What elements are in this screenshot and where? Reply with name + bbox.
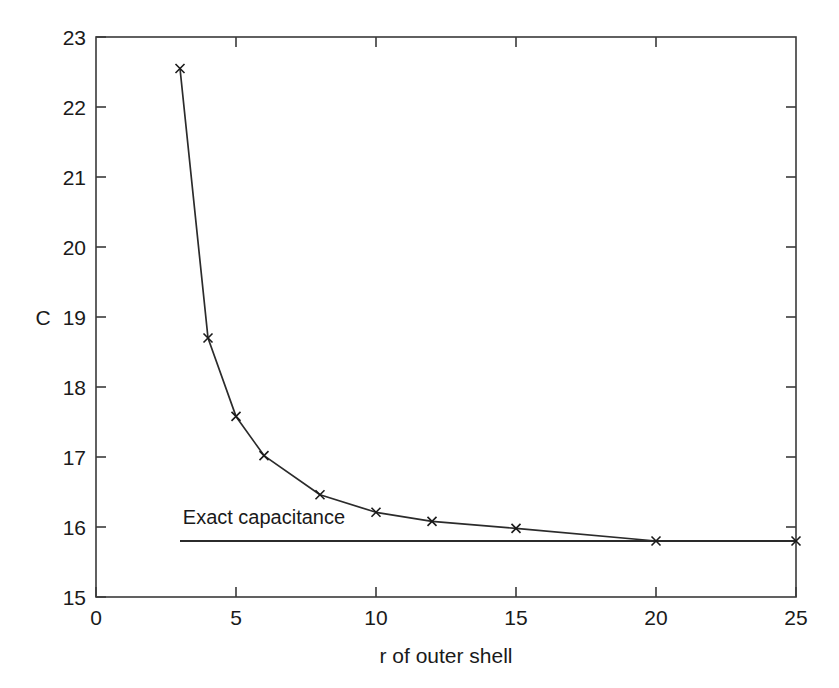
y-tick-label-18: 18 <box>63 376 86 399</box>
y-tick-label-23: 23 <box>63 26 86 49</box>
figure-container: 23 22 21 20 19 18 17 16 15 0 5 10 15 20 … <box>0 0 839 688</box>
y-tick-label-19: 19 <box>63 306 86 329</box>
x-tick-label-25: 25 <box>784 606 807 629</box>
y-tick-label-22: 22 <box>63 96 86 119</box>
cropped-caption-text <box>0 676 839 688</box>
y-tick-label-16: 16 <box>63 516 86 539</box>
x-tick-label-10: 10 <box>364 606 387 629</box>
x-tick-label-0: 0 <box>90 606 102 629</box>
y-axis-title: C <box>35 306 50 329</box>
y-tick-label-20: 20 <box>63 236 86 259</box>
x-axis-title: r of outer shell <box>379 644 512 667</box>
x-tick-label-5: 5 <box>230 606 242 629</box>
x-tick-label-15: 15 <box>504 606 527 629</box>
exact-capacitance-label: Exact capacitance <box>183 506 345 528</box>
y-tick-label-21: 21 <box>63 166 86 189</box>
y-tick-label-17: 17 <box>63 446 86 469</box>
x-tick-label-20: 20 <box>644 606 667 629</box>
capacitance-line-chart: 23 22 21 20 19 18 17 16 15 0 5 10 15 20 … <box>0 0 839 688</box>
y-tick-label-15: 15 <box>63 586 86 609</box>
